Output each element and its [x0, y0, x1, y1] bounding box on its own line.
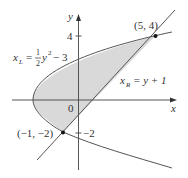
y-axis-arrow-icon [76, 14, 81, 21]
y-tick-label-4: 4 [67, 30, 73, 42]
xr-sub: R [125, 81, 131, 89]
point-label-5-4: (5, 4) [134, 19, 158, 32]
xl-frac-den: 2 [36, 59, 40, 68]
origin-label: 0 [68, 102, 74, 114]
point-neg1-neg2 [61, 131, 65, 135]
point-5-4 [154, 34, 158, 38]
xl-tail: − 3 [53, 51, 68, 63]
xl-rhs-var: y [41, 51, 47, 63]
point-label-neg1-neg2: (−1, −2) [17, 127, 54, 140]
x-axis-label: x [170, 102, 176, 114]
y-tick-label-neg2: −2 [83, 127, 95, 139]
right-curve-equation: x R = y + 1 [119, 74, 166, 89]
left-curve-equation: x L = 1 2 y 2 − 3 [12, 48, 68, 68]
xl-var: x [12, 51, 18, 63]
region-diagram: y x 0 4 −2 (5, 4) (−1, −2) x L = 1 2 y 2… [0, 0, 188, 178]
y-axis-label: y [67, 10, 73, 22]
xl-sub: L [18, 58, 23, 66]
xl-equals: = [26, 51, 32, 63]
xr-rhs: = y + 1 [133, 74, 166, 86]
xl-power: 2 [48, 49, 52, 57]
xr-var: x [119, 74, 125, 86]
xl-frac-num: 1 [36, 48, 40, 57]
